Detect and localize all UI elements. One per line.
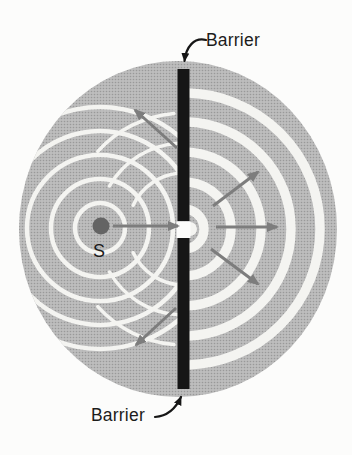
source-label: S: [93, 242, 105, 260]
diffraction-figure: Barrier Barrier S: [0, 0, 352, 455]
source-dot: [93, 218, 110, 235]
pointer-barrier-bottom: [155, 397, 181, 417]
diagram-canvas: [0, 0, 352, 455]
barrier-bottom-label: Barrier: [91, 407, 145, 425]
barrier-top-label: Barrier: [206, 32, 260, 50]
barrier-bottom: [178, 238, 190, 389]
barrier-top: [178, 69, 190, 221]
pointer-barrier-top: [185, 39, 207, 61]
slit-gap: [177, 222, 191, 239]
